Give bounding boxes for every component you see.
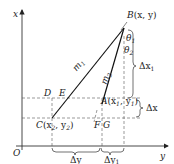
point-g-label: G	[103, 120, 110, 130]
theta1-label: θ1	[126, 33, 135, 44]
dx-label: Δx	[146, 103, 158, 113]
brace-dy	[52, 148, 100, 155]
origin-label: O	[13, 148, 21, 158]
brace-dy1	[101, 148, 124, 155]
theta2-label: θ2	[124, 45, 133, 56]
horizontal-axis-label: y	[159, 151, 166, 161]
m1-label: m1	[70, 57, 86, 74]
diagram-canvas: x y O B(x, y) θ1 θ2 m1 m2 Δx1 Δx D E A(x…	[0, 0, 174, 164]
dy-label: Δy	[70, 155, 82, 164]
segment-m2	[102, 28, 124, 104]
dy1-label: Δy1	[104, 155, 119, 164]
dx1-label: Δx1	[139, 61, 154, 72]
point-c-label: C(x2, y2)	[36, 120, 73, 131]
point-a-label: A(x1, y1)	[100, 96, 138, 107]
point-b-label: B(x, y)	[126, 10, 157, 20]
point-d-label: D	[43, 88, 51, 98]
point-e-label: E	[58, 88, 66, 98]
vertical-axis-label: x	[13, 9, 18, 19]
point-f-label: F	[93, 120, 101, 130]
coordinate-diagram: x y O B(x, y) θ1 θ2 m1 m2 Δx1 Δx D E A(x…	[0, 0, 174, 164]
